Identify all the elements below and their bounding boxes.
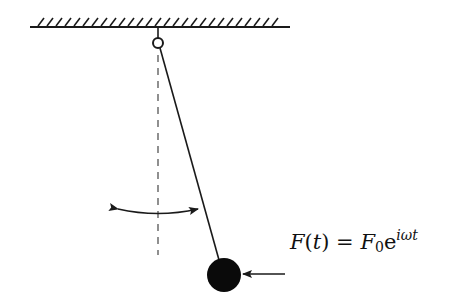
pendulum-bob [207,258,241,292]
formula-equals: = [329,230,360,254]
force-formula: F(t) = F0eiωt [290,228,418,254]
formula-e: e [384,230,396,254]
formula-exponent: iωt [396,227,418,243]
formula-F0: F [360,230,375,254]
formula-paren-open: ( [305,230,313,254]
pendulum-diagram [0,0,472,302]
formula-F: F [290,230,305,254]
ceiling-hatching [38,18,278,26]
pendulum-rod [160,48,219,260]
formula-subscript: 0 [375,239,384,255]
pivot-icon [153,38,163,48]
formula-t: t [313,230,321,254]
